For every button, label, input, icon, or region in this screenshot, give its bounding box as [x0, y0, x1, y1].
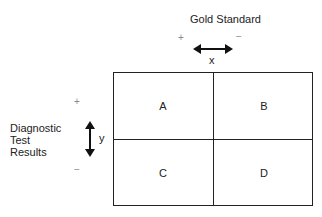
- column-plus-sign: +: [178, 32, 184, 43]
- row-label-line: Diagnostic: [10, 122, 70, 134]
- diagnostic-test-results-label: Diagnostic Test Results: [10, 122, 70, 158]
- two-by-two-table: A B C D: [113, 72, 313, 206]
- x-axis-label: x: [209, 54, 215, 66]
- cell-c: C: [153, 167, 173, 179]
- vertical-double-arrow-icon: [84, 121, 96, 157]
- row-label-line: Results: [10, 146, 70, 158]
- row-plus-sign: +: [74, 96, 80, 107]
- cell-b: B: [254, 100, 274, 112]
- row-label-line: Test: [10, 134, 70, 146]
- column-minus-sign: −: [236, 31, 242, 42]
- cell-a: A: [153, 100, 173, 112]
- gold-standard-title: Gold Standard: [190, 13, 261, 25]
- row-minus-sign: −: [74, 164, 80, 175]
- cell-d: D: [254, 167, 274, 179]
- y-axis-label: y: [99, 132, 105, 144]
- horizontal-divider: [114, 139, 312, 140]
